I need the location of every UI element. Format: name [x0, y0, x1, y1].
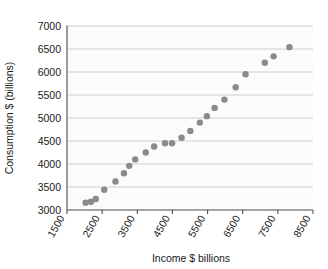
- data-point: [242, 71, 248, 77]
- y-tick-label-6000: 6000: [38, 66, 62, 78]
- data-point: [211, 105, 217, 111]
- x-tick-label-1500: 1500: [45, 213, 67, 239]
- data-point: [178, 135, 184, 141]
- x-tick-label-4500: 4500: [150, 213, 172, 239]
- x-axis-title: Income $ billions: [152, 252, 230, 264]
- data-point: [162, 140, 168, 146]
- data-point: [169, 140, 175, 146]
- y-tick-label-7000: 7000: [38, 20, 62, 32]
- data-point: [204, 113, 210, 119]
- data-point: [121, 170, 127, 176]
- data-point: [286, 44, 292, 50]
- data-point: [270, 53, 276, 59]
- x-tick-label-3500: 3500: [115, 213, 137, 239]
- y-tick-label-6500: 6500: [38, 43, 62, 55]
- x-tick-label-7500: 7500: [256, 213, 278, 239]
- x-axis-tick-labels: 15002500350045005500650075008500: [45, 213, 313, 239]
- data-point: [221, 96, 227, 102]
- y-tick-label-4000: 4000: [38, 158, 62, 170]
- x-tick-label-8500: 8500: [291, 213, 313, 239]
- data-point: [232, 84, 238, 90]
- chart-canvas: 300035004000450050005500600065007000 150…: [0, 0, 328, 269]
- data-point: [93, 196, 99, 202]
- y-tick-label-4500: 4500: [38, 135, 62, 147]
- scatter-chart-figure: 300035004000450050005500600065007000 150…: [0, 0, 328, 269]
- data-point: [126, 163, 132, 169]
- data-point: [143, 149, 149, 155]
- y-tick-label-3500: 3500: [38, 181, 62, 193]
- data-point: [112, 178, 118, 184]
- y-tick-label-5000: 5000: [38, 112, 62, 124]
- y-tick-label-5500: 5500: [38, 89, 62, 101]
- x-tick-label-2500: 2500: [80, 213, 102, 239]
- y-axis-tick-labels: 300035004000450050005500600065007000: [38, 20, 62, 216]
- data-point: [262, 60, 268, 66]
- x-tick-label-6500: 6500: [220, 213, 242, 239]
- data-point: [101, 187, 107, 193]
- data-point: [187, 128, 193, 134]
- data-point: [132, 156, 138, 162]
- x-tick-label-5500: 5500: [185, 213, 207, 239]
- y-axis-title: Consumption $ (billions): [3, 62, 15, 175]
- data-point: [151, 143, 157, 149]
- data-point: [197, 119, 203, 125]
